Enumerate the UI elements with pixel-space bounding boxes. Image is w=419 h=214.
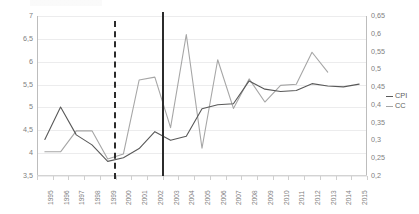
x-axis-tick-label: 1995	[48, 190, 55, 205]
x-axis-tick-label: 1999	[111, 190, 118, 205]
cropped-title-remnant	[30, 0, 150, 6]
x-axis-tick	[37, 176, 38, 180]
x-axis-tick-label: 2014	[346, 190, 353, 205]
x-axis-tick-label: 2001	[142, 190, 149, 205]
cpi-line-swatch-icon	[386, 96, 393, 97]
x-axis-tick	[100, 176, 101, 180]
x-axis-tick-label: 2002	[158, 190, 165, 205]
x-axis-tick-label: 2004	[189, 190, 196, 205]
cc-line-series	[45, 34, 328, 158]
legend-item-cpi[interactable]: CPI	[386, 91, 407, 101]
x-axis-tick	[273, 176, 274, 180]
x-axis-tick-label: 2003	[174, 190, 181, 205]
line-chart: 3,544,555,566,57 0,20,250,30,350,40,450,…	[0, 0, 419, 214]
x-axis-tick	[163, 176, 164, 180]
left-axis-tick-label: 3,5	[0, 172, 33, 179]
x-axis-tick-label: 2008	[252, 190, 259, 205]
x-axis-tick-label: 1998	[95, 190, 102, 205]
right-axis-tick-label: 0,6	[371, 30, 381, 37]
x-axis-tick-label: 2009	[268, 190, 275, 205]
x-axis-tick	[68, 176, 69, 180]
x-axis-tick	[178, 176, 179, 180]
x-axis-tick-label: 2006	[221, 190, 228, 205]
x-axis-tick	[147, 176, 148, 180]
x-axis-tick	[194, 176, 195, 180]
x-axis-tick-label: 2012	[315, 190, 322, 205]
left-axis-tick-label: 4,5	[0, 126, 33, 133]
x-axis-tick	[257, 176, 258, 180]
legend-label-cpi: CPI	[395, 91, 407, 101]
right-axis-tick-label: 0,4	[371, 101, 381, 108]
cc-line-swatch-icon	[386, 106, 393, 107]
x-axis-tick	[304, 176, 305, 180]
x-axis-tick-label: 1997	[79, 190, 86, 205]
left-axis-tick-label: 6,5	[0, 35, 33, 42]
x-axis-tick	[336, 176, 337, 180]
left-axis-tick-label: 7	[0, 12, 33, 19]
right-axis-tick-label: 0,55	[371, 48, 385, 55]
right-axis-tick-label: 0,3	[371, 136, 381, 143]
x-axis-tick	[320, 176, 321, 180]
plot-area	[37, 16, 367, 176]
x-axis-tick	[351, 176, 352, 180]
solid-event-line	[162, 12, 164, 176]
x-axis-tick-label: 2011	[299, 191, 306, 205]
dashed-event-line	[114, 21, 116, 179]
x-axis-tick-label: 2013	[331, 190, 338, 205]
x-axis-tick-label: 2010	[284, 190, 291, 205]
x-axis-tick	[288, 176, 289, 180]
x-axis-tick-label: 2000	[126, 190, 133, 205]
x-axis-tick	[53, 176, 54, 180]
right-axis-tick-label: 0,2	[371, 172, 381, 179]
right-axis-tick-label: 0,65	[371, 12, 385, 19]
x-axis-tick-label: 2015	[362, 190, 369, 205]
legend-label-cc: CC	[395, 101, 406, 111]
right-axis-tick-label: 0,45	[371, 83, 385, 90]
x-axis-tick	[226, 176, 227, 180]
right-axis-tick-label: 0,5	[371, 65, 381, 72]
left-axis-tick-label: 5	[0, 103, 33, 110]
left-axis-tick-label: 6	[0, 58, 33, 65]
x-axis-tick-label: 2007	[236, 190, 243, 205]
cpi-line-series	[45, 81, 359, 161]
x-axis-tick	[84, 176, 85, 180]
left-axis-tick-label: 4	[0, 149, 33, 156]
chart-legend: CPI CC	[386, 91, 407, 111]
left-axis-tick-label: 5,5	[0, 81, 33, 88]
x-axis-tick	[367, 176, 368, 180]
x-axis-tick	[241, 176, 242, 180]
gridline	[37, 176, 367, 177]
x-axis-tick	[131, 176, 132, 180]
right-axis-tick-label: 0,35	[371, 119, 385, 126]
x-axis-tick-label: 2005	[205, 190, 212, 205]
x-axis-tick	[210, 176, 211, 180]
x-axis-tick-label: 1996	[64, 190, 71, 205]
legend-item-cc[interactable]: CC	[386, 101, 407, 111]
right-axis-tick-label: 0,25	[371, 154, 385, 161]
series-layer	[37, 16, 367, 176]
